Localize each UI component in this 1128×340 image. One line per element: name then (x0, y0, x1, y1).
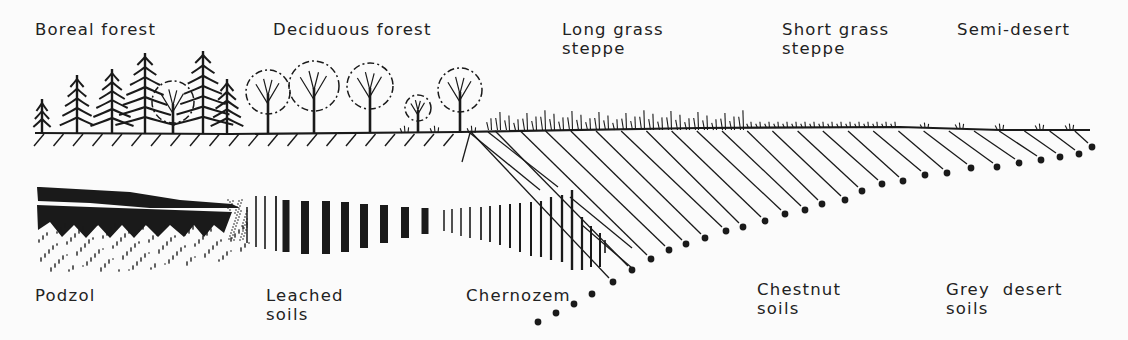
carbonate-dot (571, 301, 578, 308)
carbonate-dot (683, 241, 690, 248)
podzol-stipple-dot (70, 240, 72, 242)
hatch-line (520, 131, 647, 255)
podzol-stipple-dot (68, 270, 70, 272)
leached-soil-bar (550, 197, 552, 260)
podzol-stipple-dot (192, 228, 194, 230)
podzol-stipple-dot (239, 239, 241, 241)
podzol-stipple-dot (130, 250, 132, 252)
hatch-line (571, 131, 682, 240)
hatch-line (1050, 131, 1075, 150)
podzol-stipple-dot (152, 238, 154, 240)
ground-hatch-tick (93, 134, 103, 146)
podzol-stipple-dot (132, 268, 134, 270)
tree-group (33, 51, 482, 133)
leached-soil-bar (599, 233, 601, 267)
podzol-stipple-dot (98, 252, 100, 254)
podzol-stipple-dot (124, 236, 126, 238)
grass-tuft-icon (541, 110, 546, 130)
podzol-stipple-dot (190, 260, 192, 262)
podzol-stipple-dot (242, 238, 244, 240)
leached-soil-bar (380, 205, 388, 243)
hatch-line (924, 131, 967, 164)
ground-hatch-tick (444, 134, 454, 146)
carbonate-dot (535, 319, 542, 326)
podzol-stipple-dot (72, 268, 74, 270)
podzol-stipple-dot (136, 264, 138, 266)
podzol-stipple-dot (100, 270, 102, 272)
podzol-stipple-dot (126, 254, 128, 256)
podzol-stipple-dot (76, 254, 78, 256)
podzol-stipple-dot (60, 230, 62, 232)
grass-tuft-icon (559, 117, 564, 130)
ground-hatch-tick (424, 134, 434, 146)
ground-hatch-tick (112, 134, 122, 146)
podzol-stipple-dot (110, 230, 112, 232)
leached-soil-bar (301, 201, 309, 254)
leached-soil-bar (460, 208, 462, 236)
podzol-stipple-dot (222, 258, 224, 260)
podzol-stipple-dot (241, 199, 243, 201)
leached-soil-bars (246, 190, 606, 270)
hatch-line (672, 131, 761, 217)
podzol-stipple-dot (154, 266, 156, 268)
leached-soil-bar (275, 196, 277, 251)
podzol-stipple-dot (140, 260, 142, 262)
carbonate-dot (1089, 144, 1096, 151)
ground-hatch-tick (151, 134, 161, 146)
ground-hatch-tick (268, 134, 278, 146)
leached-soil-bar (540, 201, 542, 257)
podzol-stipple-dot (227, 199, 229, 201)
carbonate-dot (723, 228, 730, 235)
grass-tuft-icon (496, 112, 501, 130)
leached-soil-bar (401, 207, 409, 238)
carbonate-dot (648, 256, 655, 263)
podzol-stipple-dot (94, 256, 96, 258)
hatch-line (873, 131, 921, 171)
podzol-stipple-dot (204, 256, 206, 258)
podzol-stipple-dot (58, 262, 60, 264)
podzol-stipple-dot (238, 200, 240, 202)
deciduous-tree-icon (405, 95, 431, 133)
podzol-stipple-dot (244, 246, 246, 248)
leached-soil-bar (571, 190, 573, 270)
podzol-stipple-dot (241, 225, 243, 227)
podzol-stipple-dot (148, 252, 150, 254)
podzol-stipple-dot (78, 232, 80, 234)
grass-tuft-icon (1035, 124, 1043, 129)
podzol-stipple-dot (242, 230, 244, 232)
leached-soil-bar (360, 204, 368, 248)
podzol-stipple-dot (237, 219, 239, 221)
deciduous-tree-icon (289, 61, 339, 133)
grass-tuft-icon (955, 123, 963, 128)
podzol-stipple-dot (186, 264, 188, 266)
podzol-illuvial-layer (37, 205, 232, 238)
conifer-tree-icon (33, 99, 50, 133)
podzol-stipple-dot (168, 262, 170, 264)
hatch-line (596, 131, 701, 234)
carbonate-dot (994, 164, 1001, 171)
podzol-stipple-dot (38, 241, 40, 243)
leached-soil-bar (499, 205, 501, 245)
podzol-stipple-dot (92, 226, 94, 228)
podzol-stipple-dot (128, 269, 130, 271)
podzol-stipple-dot (96, 224, 98, 226)
podzol-stipple-dot (80, 250, 82, 252)
hatch-line (823, 131, 878, 180)
podzol-stipple-dot (239, 213, 241, 215)
podzol-stipple-dot (220, 240, 222, 242)
grass-tuft-icon (568, 111, 573, 130)
podzol-stipple-dot (233, 239, 235, 241)
podzol-stipple-dot (229, 235, 231, 237)
leached-soil-bar (469, 207, 471, 238)
hatch-line (898, 131, 943, 169)
grass-tuft-icon (640, 110, 645, 130)
zone-label-long-grass-steppe: Long grass steppe (562, 20, 664, 58)
podzol-stipple-dot (227, 215, 229, 217)
podzol-stipple-dot (62, 258, 64, 260)
hatch-line (546, 131, 665, 246)
carbonate-dot (1016, 160, 1023, 167)
podzol-stipple-dot (172, 258, 174, 260)
podzol-stipple-dot (102, 237, 104, 239)
grass-tuft-icon (667, 111, 672, 130)
deciduous-tree-icon (347, 63, 393, 133)
